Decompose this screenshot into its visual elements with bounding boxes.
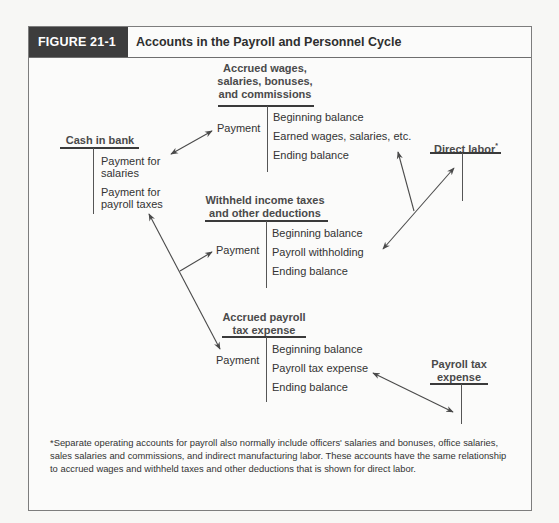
arrow-cash-to-accrued-wages — [171, 131, 212, 154]
arrow-branch-to-earned-wages — [398, 152, 414, 211]
footnote: *Separate operating accounts for payroll… — [50, 437, 510, 475]
arrow-direct-labor-to-withholding — [383, 168, 454, 249]
arrow-payroll-tax-expense — [373, 373, 453, 412]
arrow-branch-to-withheld — [180, 252, 212, 271]
arrow-cash-to-accrued-payroll-tax — [149, 214, 220, 349]
